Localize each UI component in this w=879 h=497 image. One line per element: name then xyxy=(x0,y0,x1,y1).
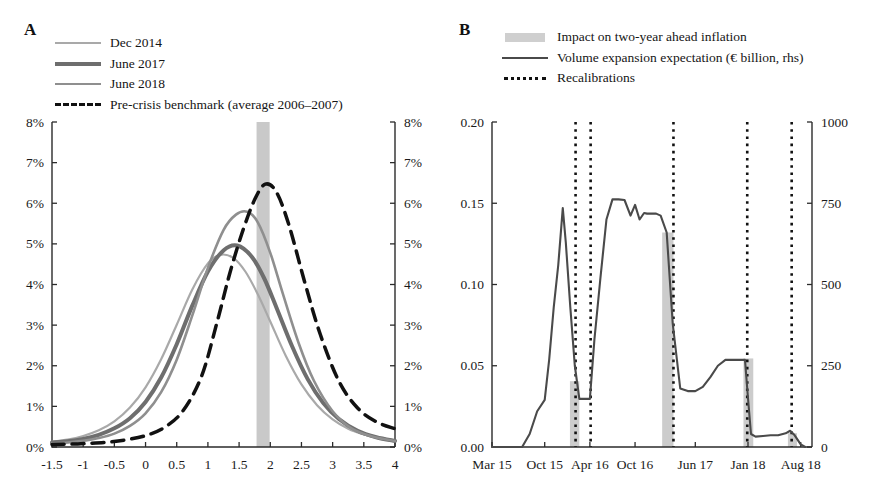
b-x-tick-label-4: Jun 17 xyxy=(677,457,713,472)
panel-b-plot: 0.000.050.100.150.2002505007501000Mar 15… xyxy=(440,0,879,497)
b-y-tick-label-left-1: 0.05 xyxy=(460,358,484,373)
figure-container: A Dec 2014 June 2017 June 2018 xyxy=(0,0,879,497)
x-tick-label-5: 1 xyxy=(205,457,212,472)
x-tick-label-6: 1.5 xyxy=(231,457,248,472)
y-tick-label-right-1: 1% xyxy=(404,399,422,414)
b-x-tick-label-1: Oct 15 xyxy=(527,457,564,472)
x-tick-label-10: 3.5 xyxy=(355,457,372,472)
panel-b: B Impact on two-year ahead inflation Vol… xyxy=(440,0,879,497)
y-tick-label-right-2: 2% xyxy=(404,358,422,373)
b-y-tick-label-right-1: 250 xyxy=(821,358,842,373)
y-tick-label-right-3: 3% xyxy=(404,318,422,333)
y-tick-label-right-8: 8% xyxy=(404,115,422,130)
x-tick-label-4: 0.5 xyxy=(168,457,185,472)
y-tick-label-left-6: 6% xyxy=(26,196,44,211)
y-tick-label-right-4: 4% xyxy=(404,277,422,292)
x-tick-label-0: -1.5 xyxy=(41,457,63,472)
y-tick-label-right-0: 0% xyxy=(404,440,422,455)
x-tick-label-9: 3 xyxy=(329,457,336,472)
b-x-tick-label-0: Mar 15 xyxy=(472,457,512,472)
y-tick-label-left-1: 1% xyxy=(26,399,44,414)
b-x-tick-label-6: Aug 18 xyxy=(781,457,821,472)
x-tick-label-1: -1 xyxy=(78,457,89,472)
curve-series-3 xyxy=(52,184,395,445)
curve-series-1 xyxy=(52,245,395,442)
volume-expansion-line xyxy=(492,199,805,447)
panel-a: A Dec 2014 June 2017 June 2018 xyxy=(0,0,440,497)
b-y-tick-label-right-0: 0 xyxy=(821,440,828,455)
b-y-tick-label-left-2: 0.10 xyxy=(460,277,484,292)
b-y-tick-label-left-0: 0.00 xyxy=(460,440,484,455)
curve-series-2 xyxy=(52,211,395,443)
b-y-tick-label-left-4: 0.20 xyxy=(460,115,484,130)
curve-series-0 xyxy=(52,254,395,441)
y-tick-label-left-8: 8% xyxy=(26,115,44,130)
y-tick-label-right-7: 7% xyxy=(404,155,422,170)
b-y-tick-label-right-3: 750 xyxy=(821,196,842,211)
y-tick-label-left-5: 5% xyxy=(26,236,44,251)
b-y-tick-label-right-2: 500 xyxy=(821,277,842,292)
panel-a-axes xyxy=(52,122,395,447)
b-y-tick-label-right-4: 1000 xyxy=(821,115,848,130)
x-tick-label-8: 2.5 xyxy=(293,457,310,472)
panel-a-svg: 0%0%1%1%2%2%3%3%4%4%5%5%6%6%7%7%8%8%-1.5… xyxy=(0,0,440,497)
y-tick-label-left-3: 3% xyxy=(26,318,44,333)
y-tick-label-left-7: 7% xyxy=(26,155,44,170)
b-y-tick-label-left-3: 0.15 xyxy=(460,196,484,211)
y-tick-label-left-4: 4% xyxy=(26,277,44,292)
y-tick-label-right-5: 5% xyxy=(404,236,422,251)
x-tick-label-7: 2 xyxy=(267,457,274,472)
b-x-tick-label-3: Oct 16 xyxy=(617,457,654,472)
y-tick-label-left-2: 2% xyxy=(26,358,44,373)
y-tick-label-left-0: 0% xyxy=(26,440,44,455)
y-tick-label-right-6: 6% xyxy=(404,196,422,211)
panel-b-axes xyxy=(492,122,812,447)
x-tick-label-2: -0.5 xyxy=(104,457,126,472)
panel-b-svg: 0.000.050.100.150.2002505007501000Mar 15… xyxy=(440,0,879,497)
b-x-tick-label-2: Apr 16 xyxy=(571,457,609,472)
x-tick-label-3: 0 xyxy=(142,457,149,472)
x-tick-label-11: 4 xyxy=(392,457,399,472)
panel-a-plot: 0%0%1%1%2%2%3%3%4%4%5%5%6%6%7%7%8%8%-1.5… xyxy=(0,0,440,497)
b-x-tick-label-5: Jan 18 xyxy=(731,457,766,472)
